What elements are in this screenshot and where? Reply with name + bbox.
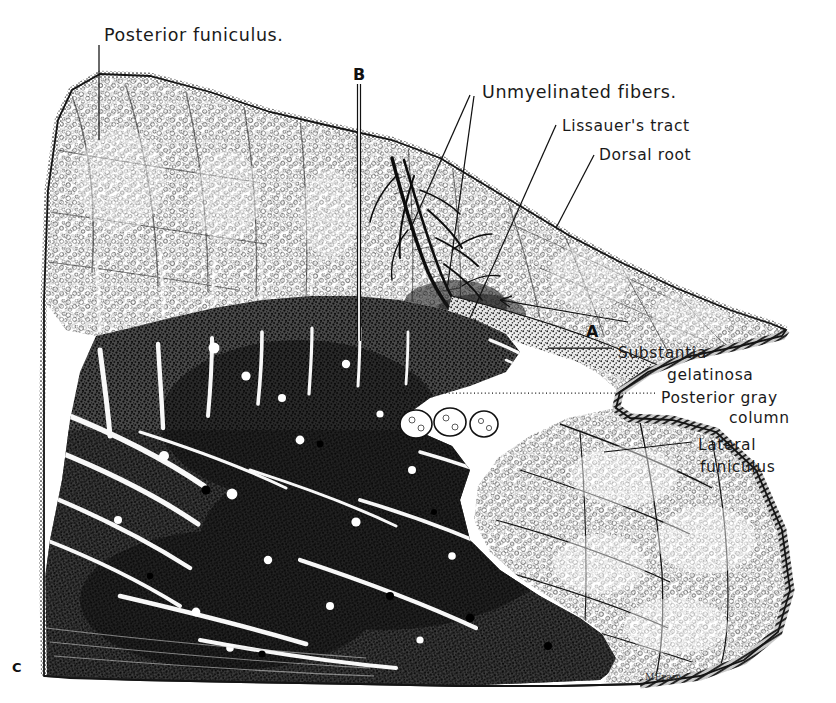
label-posterior-funiculus: Posterior funiculus. — [104, 25, 283, 45]
artist-signature: MFrain — [645, 672, 682, 682]
label-unmyelinated-fibers: Unmyelinated fibers. — [482, 82, 677, 102]
figure-canvas: Posterior funiculus. Unmyelinated fibers… — [0, 0, 836, 703]
marker-b-label: B — [353, 65, 365, 84]
label-posterior-gray-column-line2: column — [729, 409, 790, 427]
marker-a-label: A — [586, 322, 598, 341]
label-dorsal-root: Dorsal root — [599, 146, 691, 164]
label-posterior-gray-column-line1: Posterior gray — [661, 389, 778, 407]
illustration-svg — [0, 0, 836, 703]
label-lissauers-tract: Lissauer's tract — [562, 117, 690, 135]
marker-c-label: C — [12, 660, 22, 675]
leader-dorsal-root — [556, 155, 594, 228]
label-lateral-funiculus-line1: Lateral — [698, 436, 756, 454]
label-lateral-funiculus-line2: funiculus — [700, 458, 775, 476]
fiber-bundle-cluster — [400, 408, 498, 438]
label-substantia-gelatinosa-line2: gelatinosa — [667, 366, 753, 384]
label-substantia-gelatinosa-line1: Substantia — [618, 344, 707, 362]
